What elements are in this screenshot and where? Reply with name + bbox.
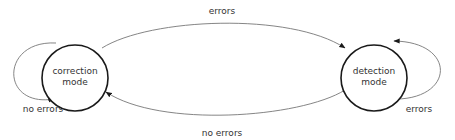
node-detection-mode: detection mode xyxy=(341,45,407,111)
edge-label-errors-top: errors xyxy=(209,6,236,16)
edge-path-no-errors-bottom xyxy=(106,90,345,115)
edge-correction-to-detection: errors xyxy=(102,6,345,48)
edge-label-no-errors-bottom: no errors xyxy=(202,128,243,138)
state-diagram: errors no errors no errors errors correc… xyxy=(0,0,455,140)
node-correction-mode: correction mode xyxy=(42,45,108,111)
node-label-detection-line1: detection xyxy=(353,66,396,76)
edge-path-errors-top xyxy=(102,23,345,48)
edge-detection-to-correction: no errors xyxy=(106,90,345,138)
node-label-correction-line2: mode xyxy=(62,77,88,87)
node-label-correction-line1: correction xyxy=(52,66,97,76)
node-label-detection-line2: mode xyxy=(361,77,387,87)
edge-label-detection-loop: errors xyxy=(406,104,433,114)
